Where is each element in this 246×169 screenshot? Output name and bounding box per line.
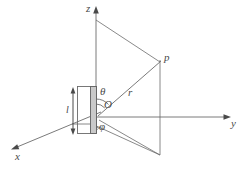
length-dimension (71, 87, 76, 135)
figure-canvas: z y x p r θ O φ l (0, 0, 246, 169)
radius-label: r (128, 87, 132, 98)
aperture-plate-group (78, 87, 97, 134)
x-axis-label: x (15, 151, 20, 162)
y-axis-arrowhead (224, 114, 232, 120)
y-axis (92, 114, 231, 120)
theta-angle-label: θ (100, 86, 105, 97)
phi-angle-label: φ (99, 121, 105, 132)
x-axis-line (17, 112, 101, 147)
z-axis-label: z (86, 3, 90, 14)
z-to-p-line (96, 20, 160, 62)
y-axis-label: y (231, 118, 236, 129)
point-p-label: p (164, 52, 170, 63)
length-dimension-arrowhead-bottom (71, 129, 76, 136)
construction-lines (72, 20, 160, 155)
geometry-diagram (0, 0, 246, 169)
x-axis-arrowhead (11, 144, 19, 149)
origin-to-lower-vertex-line (99, 120, 160, 155)
origin-label: O (104, 99, 112, 110)
length-dimension-arrowhead-top (71, 87, 76, 94)
z-axis-arrowhead (93, 6, 99, 14)
axes-group (11, 6, 231, 150)
plate-shaded-slab (91, 87, 97, 134)
x-axis (11, 112, 101, 150)
length-label: l (66, 105, 69, 115)
